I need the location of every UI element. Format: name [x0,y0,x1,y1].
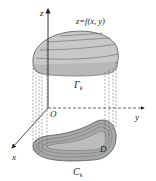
z-axis-label: z [39,8,44,18]
region-d [33,120,116,161]
diagram-canvas: z y x O z=f(x, y) Γk Ck D [0,0,156,181]
origin-label: O [50,109,57,119]
gamma-k-label: Γk [73,79,83,91]
c-k-label: Ck [73,166,83,178]
x-axis-label: x [11,152,16,162]
region-d-label: D [99,144,107,154]
y-axis-label: y [134,112,139,122]
surface [33,31,118,76]
surface-label: z=f(x, y) [75,16,105,26]
